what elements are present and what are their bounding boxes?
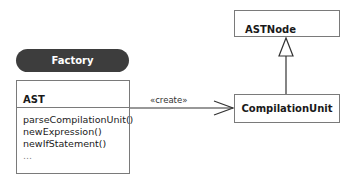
operation: parseCompilationUnit() [23, 114, 129, 126]
hollow-triangle-icon [279, 38, 293, 56]
factory-label: Factory [16, 49, 129, 72]
class-astnode: ASTNode [234, 10, 340, 37]
create-stereotype-label: «create» [150, 95, 187, 105]
operation-ellipsis: ... [23, 150, 129, 162]
class-name-compilationunit: CompilationUnit [241, 103, 332, 114]
class-name-ast: AST [23, 94, 45, 105]
class-ast: AST parseCompilationUnit() newExpression… [16, 80, 130, 174]
operation: newIfStatement() [23, 138, 129, 150]
class-name-astnode: ASTNode [245, 24, 296, 35]
class-compilationunit: CompilationUnit [234, 94, 340, 123]
operation: newExpression() [23, 126, 129, 138]
